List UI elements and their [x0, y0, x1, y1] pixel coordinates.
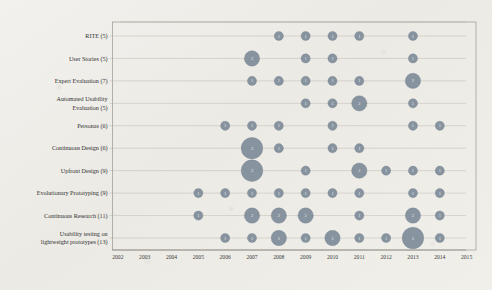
- bubble-value-label: 2: [278, 213, 280, 218]
- bubble-point[interactable]: 2: [405, 73, 420, 88]
- bubble-value-label: 1: [278, 123, 280, 128]
- bubble-point[interactable]: 2: [244, 51, 259, 66]
- bubble-point[interactable]: 2: [271, 208, 286, 223]
- bubble-value-label: 1: [358, 213, 360, 218]
- bubble-point[interactable]: 1: [355, 233, 364, 242]
- category-axis-label: Continuous Research (11): [44, 213, 107, 220]
- bubble-point[interactable]: 1: [328, 76, 337, 85]
- category-axis-label: lightweight prototypes (13): [41, 239, 108, 246]
- bubble-point[interactable]: 1: [194, 189, 203, 198]
- bubble-value-label: 1: [439, 191, 441, 196]
- bubble-value-label: 1: [278, 34, 280, 39]
- x-axis-tick-label: 2014: [434, 254, 445, 260]
- bubble-point[interactable]: 1: [301, 54, 310, 63]
- bubble-point[interactable]: 1: [274, 121, 283, 130]
- bubble-value-label: 2: [251, 213, 253, 218]
- bubble-point[interactable]: 1: [328, 99, 337, 108]
- bubble-point[interactable]: 1: [408, 189, 417, 198]
- bubble-value-label: 1: [305, 101, 307, 106]
- plot-area-border: [113, 22, 477, 250]
- x-axis-tick-label: 2013: [407, 254, 418, 260]
- x-axis-tick-label: 2011: [354, 254, 365, 260]
- bubble-point[interactable]: 3: [241, 137, 263, 159]
- bubble-value-label: 1: [251, 78, 253, 83]
- bubble-point[interactable]: 1: [435, 166, 444, 175]
- category-axis-label: Evolutionary Prototyping (9): [37, 190, 108, 197]
- bubble-value-label: 1: [331, 34, 333, 39]
- bubble-point[interactable]: 1: [274, 76, 283, 85]
- bubble-point[interactable]: 1: [408, 166, 417, 175]
- bubble-point[interactable]: 1: [301, 189, 310, 198]
- bubble-point[interactable]: 1: [301, 233, 310, 242]
- bubble-point[interactable]: 1: [247, 76, 256, 85]
- bubble-value-label: 1: [305, 56, 307, 61]
- bubble-point[interactable]: 1: [274, 31, 283, 40]
- bubble-point[interactable]: 1: [355, 189, 364, 198]
- bubble-point[interactable]: 1: [221, 121, 230, 130]
- bubble-point[interactable]: 2: [352, 163, 367, 178]
- bubble-point[interactable]: 2: [298, 208, 313, 223]
- bubble-value-label: 1: [412, 123, 414, 128]
- bubble-point[interactable]: 3: [402, 227, 424, 249]
- bubble-value-label: 2: [358, 168, 360, 173]
- bubble-point[interactable]: 2: [352, 96, 367, 111]
- bubble-point[interactable]: 1: [355, 76, 364, 85]
- bubble-point[interactable]: 1: [382, 166, 391, 175]
- bubble-point[interactable]: 1: [274, 144, 283, 153]
- bubble-point[interactable]: 1: [408, 54, 417, 63]
- bubble-point[interactable]: 1: [247, 121, 256, 130]
- bubble-point[interactable]: 1: [301, 76, 310, 85]
- bubble-point[interactable]: 1: [328, 31, 337, 40]
- bubble-value-label: 1: [305, 191, 307, 196]
- bubble-value-label: 1: [412, 191, 414, 196]
- bubble-value-label: 1: [224, 123, 226, 128]
- bubble-point[interactable]: 2: [271, 230, 286, 245]
- x-axis-tick-label: 2002: [112, 254, 123, 260]
- bubble-point[interactable]: 1: [247, 233, 256, 242]
- bubble-point[interactable]: 1: [355, 144, 364, 153]
- bubble-point[interactable]: 2: [325, 230, 340, 245]
- bubble-value-label: 1: [278, 146, 280, 151]
- category-axis-label: Personas (6): [77, 123, 107, 130]
- bubble-point[interactable]: 1: [408, 121, 417, 130]
- bubble-point[interactable]: 1: [355, 211, 364, 220]
- bubble-value-label: 1: [305, 34, 307, 39]
- bubble-point[interactable]: 3: [241, 160, 263, 182]
- bubble-point[interactable]: 1: [382, 233, 391, 242]
- bubble-point[interactable]: 1: [435, 211, 444, 220]
- bubble-point[interactable]: 1: [328, 189, 337, 198]
- bubble-value-label: 2: [305, 213, 307, 218]
- bubble-point[interactable]: 1: [328, 144, 337, 153]
- category-axis-label: User Stories (5): [69, 56, 108, 63]
- bubble-value-label: 1: [251, 236, 253, 241]
- bubble-value-label: 1: [385, 236, 387, 241]
- x-axis-tick-label: 2005: [193, 254, 204, 260]
- bubble-point[interactable]: 1: [408, 99, 417, 108]
- bubble-point[interactable]: 1: [301, 166, 310, 175]
- bubble-point[interactable]: 1: [301, 31, 310, 40]
- bubble-point[interactable]: 1: [408, 31, 417, 40]
- bubble-point[interactable]: 1: [328, 54, 337, 63]
- bubble-point[interactable]: 2: [405, 208, 420, 223]
- bubble-point[interactable]: 1: [221, 233, 230, 242]
- bubble-point[interactable]: 1: [435, 189, 444, 198]
- bubble-point[interactable]: 1: [435, 233, 444, 242]
- x-axis-tick-label: 2008: [273, 254, 284, 260]
- bubble-value-label: 1: [331, 56, 333, 61]
- bubble-point[interactable]: 1: [301, 99, 310, 108]
- bubble-point[interactable]: 2: [244, 208, 259, 223]
- bubble-value-label: 1: [412, 56, 414, 61]
- bubble-point[interactable]: 1: [274, 189, 283, 198]
- bubble-point[interactable]: 1: [355, 31, 364, 40]
- bubble-value-label: 1: [331, 101, 333, 106]
- bubble-point[interactable]: 1: [328, 121, 337, 130]
- bubble-point[interactable]: 1: [194, 211, 203, 220]
- bubble-point[interactable]: 1: [247, 189, 256, 198]
- category-axis-label: Automated Usability: [57, 96, 109, 102]
- bubble-value-label: 1: [278, 78, 280, 83]
- bubble-point[interactable]: 1: [221, 189, 230, 198]
- bubble-value-label: 1: [439, 213, 441, 218]
- bubble-value-label: 1: [412, 34, 414, 39]
- category-axis-label: Usability testing on: [60, 231, 108, 237]
- bubble-point[interactable]: 1: [435, 121, 444, 130]
